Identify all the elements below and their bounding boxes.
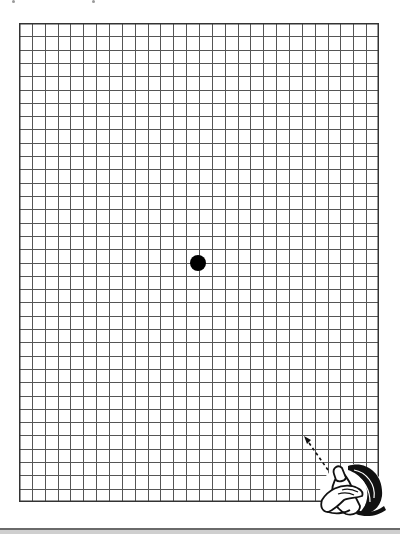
scan-artifact: [12, 0, 15, 3]
hand-covering-eye-icon: [298, 430, 394, 520]
scan-artifact: [92, 0, 95, 3]
bottom-bar: [0, 528, 400, 534]
fixation-dot: [190, 255, 206, 271]
dashed-arrow-icon: [304, 436, 328, 470]
